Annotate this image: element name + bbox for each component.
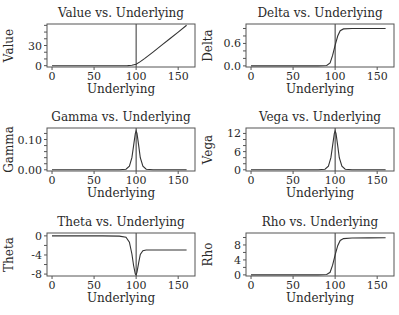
y-axis-label: Delta [201, 29, 215, 62]
panel-title: Vega vs. Underlying [258, 110, 381, 124]
y-tick-label: -8 [31, 268, 42, 281]
rho-curve [251, 238, 386, 275]
y-tick-label: 0.6 [224, 37, 242, 50]
panel-title: Theta vs. Underlying [57, 215, 185, 229]
y-tick-label: 30 [28, 40, 42, 53]
panel-title: Delta vs. Underlying [257, 6, 382, 20]
y-tick-label: 0 [234, 164, 241, 177]
x-tick-label: 150 [168, 174, 189, 187]
plot-frame [246, 24, 394, 67]
panel-gamma: Gamma vs. Underlying050100150Underlying0… [2, 110, 195, 200]
y-axis-label: Gamma [2, 126, 16, 173]
plot-frame [246, 233, 394, 276]
y-tick-label: 0.00 [18, 164, 43, 177]
plot-frame [47, 128, 195, 171]
y-tick-label: 0.10 [18, 134, 43, 147]
greeks-figure: Value vs. Underlying050100150Underlying0… [0, 0, 399, 315]
panel-title: Rho vs. Underlying [262, 215, 379, 229]
y-tick-label: 0 [35, 230, 42, 243]
y-tick-label: 8 [234, 239, 241, 252]
x-tick-label: 0 [49, 174, 56, 187]
panel-delta: Delta vs. Underlying050100150Underlying0… [201, 6, 394, 96]
panel-title: Value vs. Underlying [57, 6, 184, 20]
y-tick-label: 0 [35, 60, 42, 73]
plot-frame [246, 128, 394, 171]
x-tick-label: 150 [367, 70, 388, 83]
x-tick-label: 150 [367, 174, 388, 187]
x-tick-label: 0 [49, 70, 56, 83]
x-axis-label: Underlying [286, 82, 355, 96]
panel-title: Gamma vs. Underlying [51, 110, 191, 124]
y-axis-label: Vega [201, 135, 215, 166]
plot-frame [47, 24, 195, 67]
x-axis-label: Underlying [87, 291, 156, 305]
x-tick-label: 150 [168, 70, 189, 83]
x-axis-label: Underlying [286, 291, 355, 305]
x-tick-label: 0 [49, 279, 56, 292]
greeks-chart-grid: Value vs. Underlying050100150Underlying0… [0, 0, 399, 315]
x-tick-label: 150 [168, 279, 189, 292]
y-tick-label: -4 [31, 249, 42, 262]
y-tick-label: 6 [234, 146, 241, 159]
y-axis-label: Theta [2, 237, 16, 272]
delta-curve [251, 29, 386, 66]
gamma-curve [52, 131, 187, 170]
y-axis-label: Rho [201, 243, 215, 267]
x-tick-label: 0 [248, 279, 255, 292]
value-curve [52, 25, 187, 65]
vega-curve [251, 131, 386, 170]
x-axis-label: Underlying [286, 186, 355, 200]
x-tick-label: 0 [248, 70, 255, 83]
x-axis-label: Underlying [87, 82, 156, 96]
panel-rho: Rho vs. Underlying050100150Underlying048… [201, 215, 394, 305]
panel-theta: Theta vs. Underlying050100150Underlying0… [2, 215, 195, 305]
theta-curve [52, 236, 187, 275]
y-axis-label: Value [2, 29, 16, 63]
panel-value: Value vs. Underlying050100150Underlying0… [2, 6, 195, 96]
y-tick-label: 12 [227, 127, 241, 140]
x-tick-label: 150 [367, 279, 388, 292]
y-tick-label: 0.0 [224, 60, 242, 73]
y-tick-label: 0 [234, 269, 241, 282]
x-axis-label: Underlying [87, 186, 156, 200]
panel-vega: Vega vs. Underlying050100150Underlying06… [201, 110, 394, 200]
y-tick-label: 4 [234, 254, 241, 267]
x-tick-label: 0 [248, 174, 255, 187]
plot-frame [47, 233, 195, 276]
